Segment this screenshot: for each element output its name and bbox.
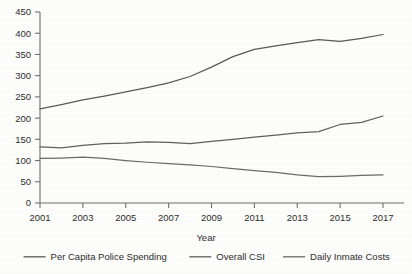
y-tick-label-50: 50 bbox=[20, 176, 31, 187]
y-tick-label-150: 150 bbox=[15, 134, 31, 145]
x-tick-label-2015: 2015 bbox=[330, 212, 351, 223]
x-tick-label-2009: 2009 bbox=[201, 212, 222, 223]
x-axis-tick-labels: 200120032005200720092011201320152017 bbox=[29, 212, 393, 223]
y-tick-label-450: 450 bbox=[15, 6, 31, 17]
x-tick-label-2003: 2003 bbox=[72, 212, 93, 223]
x-axis-ticks bbox=[40, 203, 383, 208]
y-tick-label-250: 250 bbox=[15, 91, 31, 102]
line-chart: 050100150200250300350400450 200120032005… bbox=[0, 0, 412, 274]
x-tick-label-2005: 2005 bbox=[115, 212, 136, 223]
y-tick-label-300: 300 bbox=[15, 70, 31, 81]
x-tick-label-2007: 2007 bbox=[158, 212, 179, 223]
series-line-2 bbox=[40, 157, 383, 177]
x-tick-label-2001: 2001 bbox=[29, 212, 50, 223]
y-axis-ticks bbox=[35, 12, 40, 203]
x-axis-title: Year bbox=[196, 232, 215, 243]
y-tick-label-400: 400 bbox=[15, 28, 31, 39]
y-axis-tick-labels: 050100150200250300350400450 bbox=[15, 6, 31, 208]
x-tick-label-2017: 2017 bbox=[372, 212, 393, 223]
y-tick-label-100: 100 bbox=[15, 155, 31, 166]
x-tick-label-2013: 2013 bbox=[287, 212, 308, 223]
x-tick-label-2011: 2011 bbox=[244, 212, 264, 223]
legend-label-0[interactable]: Per Capita Police Spending bbox=[51, 251, 167, 262]
legend-label-2[interactable]: Daily Inmate Costs bbox=[310, 251, 390, 262]
y-tick-label-0: 0 bbox=[26, 197, 31, 208]
series-line-1 bbox=[40, 116, 383, 148]
legend-label-1[interactable]: Overall CSI bbox=[216, 251, 265, 262]
y-axis-group: 050100150200250300350400450 bbox=[15, 6, 40, 208]
plot-series-group bbox=[40, 35, 383, 177]
y-tick-label-350: 350 bbox=[15, 49, 31, 60]
y-tick-label-200: 200 bbox=[15, 113, 31, 124]
x-axis-group: 200120032005200720092011201320152017 bbox=[29, 203, 404, 223]
chart-canvas: 050100150200250300350400450 200120032005… bbox=[0, 0, 412, 274]
chart-legend: Per Capita Police SpendingOverall CSIDai… bbox=[24, 251, 390, 262]
series-line-0 bbox=[40, 35, 383, 109]
